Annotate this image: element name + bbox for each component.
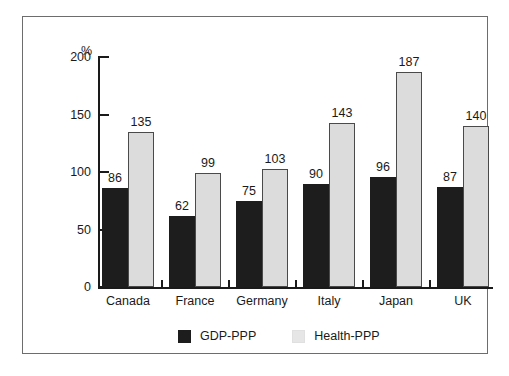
bar-italy-health-ppp bbox=[329, 123, 355, 287]
bar-canada-health-ppp bbox=[128, 132, 154, 287]
bar-uk-gdp-ppp bbox=[437, 187, 463, 287]
y-axis-tick-label: 0 bbox=[45, 281, 91, 294]
x-axis-tick bbox=[362, 280, 364, 288]
bar-canada-gdp-ppp bbox=[102, 188, 128, 287]
y-axis-tick-label: 100 bbox=[45, 166, 91, 179]
bar-japan-health-ppp bbox=[396, 72, 422, 287]
legend-swatch-gdp bbox=[178, 330, 191, 343]
x-axis-tick bbox=[228, 280, 230, 288]
legend-label: Health-PPP bbox=[314, 330, 379, 343]
bar-value-label: 135 bbox=[121, 116, 161, 129]
bar-value-label: 99 bbox=[188, 157, 228, 170]
bar-value-label: 143 bbox=[322, 107, 362, 120]
bar-value-label: 103 bbox=[255, 153, 295, 166]
bar-france-gdp-ppp bbox=[169, 216, 195, 287]
legend-swatch-health bbox=[292, 330, 305, 343]
bar-italy-gdp-ppp bbox=[303, 184, 329, 288]
x-axis-tick bbox=[429, 280, 431, 288]
y-axis-tick bbox=[100, 56, 109, 58]
y-axis-tick bbox=[100, 114, 109, 116]
x-axis-category-label: UK bbox=[420, 295, 506, 308]
y-axis-tick-label: 150 bbox=[45, 109, 91, 122]
y-axis-tick-label: 200 bbox=[45, 51, 91, 64]
legend-entry[interactable]: GDP-PPP bbox=[178, 330, 256, 343]
x-axis-tick bbox=[295, 280, 297, 288]
legend-entry[interactable]: Health-PPP bbox=[292, 330, 379, 343]
bar-germany-health-ppp bbox=[262, 169, 288, 287]
bar-france-health-ppp bbox=[195, 173, 221, 287]
chart-frame: % 050100150200 8613562997510390143961878… bbox=[22, 16, 488, 354]
bar-value-label: 140 bbox=[456, 110, 496, 123]
x-axis-tick bbox=[161, 280, 163, 288]
bar-uk-health-ppp bbox=[463, 126, 489, 287]
bar-germany-gdp-ppp bbox=[236, 201, 262, 287]
chart-legend: GDP-PPPHealth-PPP bbox=[178, 330, 380, 343]
legend-label: GDP-PPP bbox=[200, 330, 256, 343]
bar-value-label: 187 bbox=[389, 56, 429, 69]
bar-japan-gdp-ppp bbox=[370, 177, 396, 287]
y-axis-tick-label: 50 bbox=[45, 224, 91, 237]
chart-figure: % 050100150200 8613562997510390143961878… bbox=[0, 0, 509, 376]
